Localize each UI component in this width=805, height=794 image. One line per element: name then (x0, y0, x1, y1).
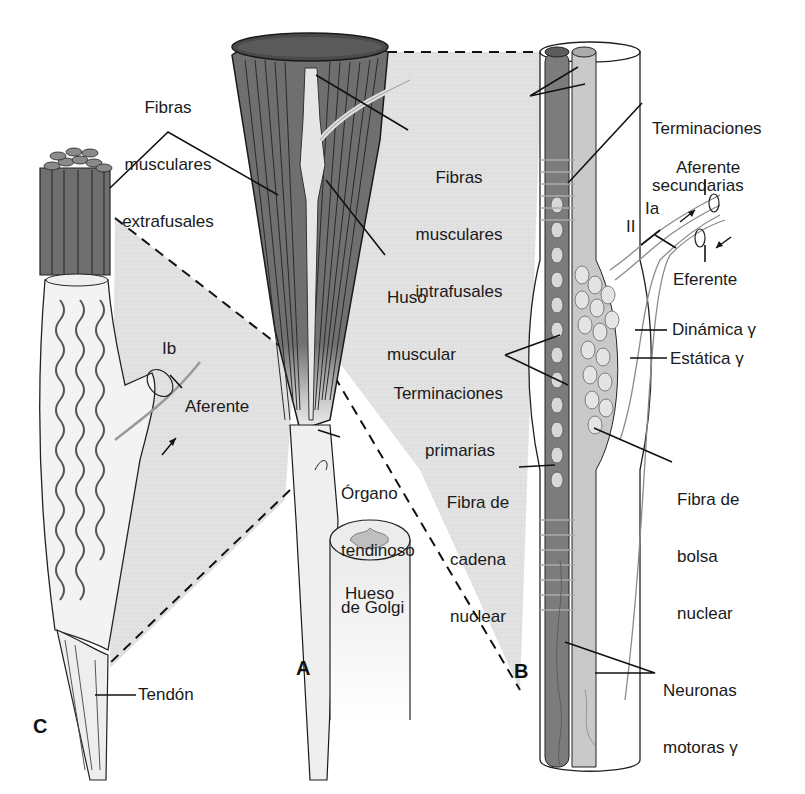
label-static-gamma: Estática γ (670, 349, 744, 368)
panel-letter-a: A (296, 657, 310, 680)
label-dynamic-gamma: Dinámica γ (672, 320, 756, 339)
label-afferent-b: Aferente (676, 158, 740, 177)
label-gamma-motor-neurons: Neuronas motoras γ (663, 643, 738, 776)
label-tendon: Tendón (138, 685, 194, 704)
label-golgi-tendon-organ: Órgano tendinoso de Golgi (341, 446, 415, 636)
label-ia: Ia (645, 199, 659, 218)
label-ii: II (626, 217, 635, 236)
label-ib: Ib (162, 339, 176, 358)
label-afferent-c: Aferente (185, 397, 249, 416)
label-bone: Hueso (345, 584, 394, 603)
panel-letter-c: C (33, 715, 47, 738)
label-efferent: Eferente (673, 270, 737, 289)
label-nuclear-chain-fiber: Fibra de cadena nuclear (438, 455, 518, 645)
label-nuclear-bag-fiber: Fibra de bolsa nuclear (677, 452, 739, 642)
label-extrafusal-fibers: Fibras musculares extrafusales (112, 60, 224, 250)
label-secondary-endings: Terminaciones secundarias (652, 81, 762, 214)
panel-letter-b: B (514, 660, 528, 683)
